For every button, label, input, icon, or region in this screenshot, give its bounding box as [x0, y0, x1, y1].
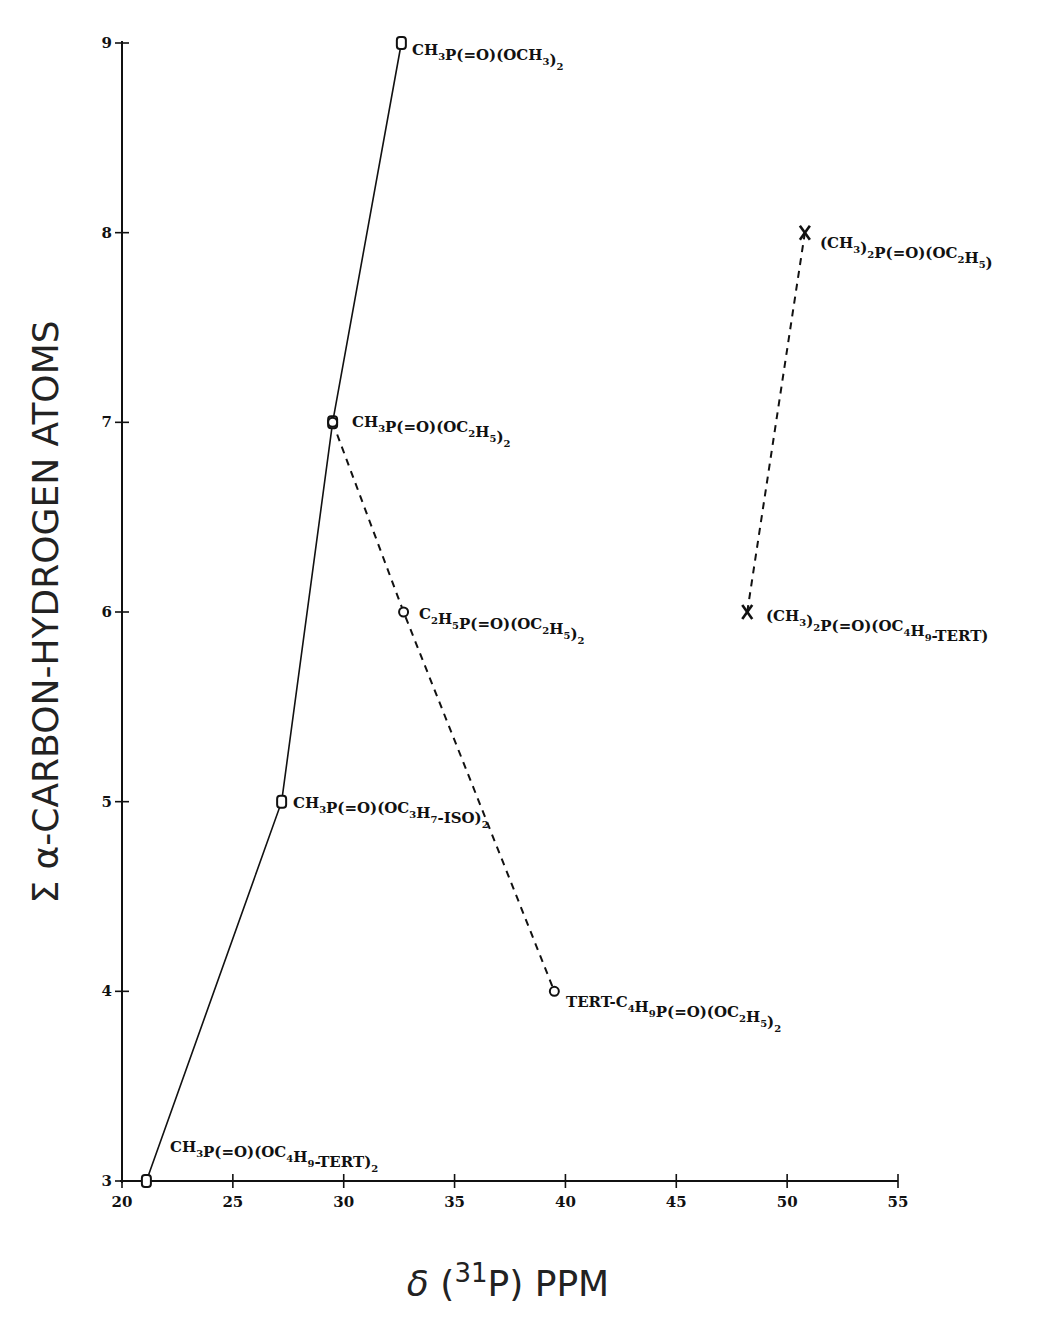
x-tick-label: 25 [222, 1193, 243, 1211]
point-label-p-iso: CH3P(=O)(OC3H7-ISO)2 [293, 794, 489, 830]
point-label-p-tert2: CH3P(=O)(OC4H9-TERT)2 [170, 1138, 378, 1174]
point-label-p-et: C2H5P(=O)(OC2H5)2 [419, 605, 585, 646]
point-label-p-tbu: TERT-C4H9P(=O)(OC2H5)2 [566, 993, 781, 1034]
y-tick-label: 6 [102, 603, 112, 621]
x-axis-title: δ (31P) PPM [407, 1258, 609, 1304]
point-label-p-och3: CH3P(=O)(OCH3)2 [412, 41, 564, 72]
y-tick-label: 3 [102, 1172, 112, 1190]
square-marker-icon [277, 796, 286, 808]
y-tick-label: 9 [102, 34, 112, 52]
point-label-p-oc2h5: CH3P(=O)(OC2H5)2 [352, 413, 511, 449]
circle-marker-icon [399, 608, 408, 617]
y-tick-label: 8 [102, 224, 112, 242]
circle-marker-icon [328, 418, 337, 427]
y-tick-label: 5 [102, 793, 112, 811]
series-line-0 [146, 43, 401, 1181]
y-axis-title: Σ α-CARBON-HYDROGEN ATOMS [25, 320, 66, 903]
circle-marker-icon [550, 987, 559, 996]
series-line-2 [747, 233, 805, 612]
square-marker-icon [142, 1175, 151, 1187]
point-label-p-dm-tbu: (CH3)2P(=O)(OC4H9-TERT) [766, 607, 988, 645]
chart: 20253035404550553456789 CH3P(=O)(OCH3)2C… [0, 0, 1049, 1330]
x-tick-label: 35 [444, 1193, 465, 1211]
x-tick-label: 40 [555, 1193, 576, 1211]
square-marker-icon [397, 37, 406, 49]
point-label-p-dm-et: (CH3)2P(=O)(OC2H5) [820, 234, 993, 272]
y-tick-label: 4 [102, 982, 112, 1000]
y-tick-label: 7 [102, 413, 112, 431]
series-line-1 [333, 422, 555, 991]
x-tick-label: 55 [888, 1193, 909, 1211]
x-tick-label: 50 [777, 1193, 798, 1211]
x-tick-label: 45 [666, 1193, 687, 1211]
x-tick-label: 30 [333, 1193, 354, 1211]
x-tick-label: 20 [112, 1193, 133, 1211]
point-labels: CH3P(=O)(OCH3)2CH3P(=O)(OC2H5)2CH3P(=O)(… [170, 41, 993, 1174]
